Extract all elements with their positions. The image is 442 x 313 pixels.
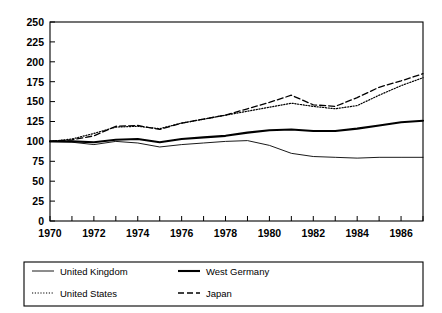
chart-legend: United KingdomWest GermanyUnited StatesJ…: [24, 262, 423, 306]
legend-label-west-germany: West Germany: [206, 266, 269, 277]
series-line-west-germany: [50, 121, 423, 143]
series-line-united-states: [50, 78, 423, 142]
legend-label-united-kingdom: United Kingdom: [60, 266, 128, 277]
chart-container: 0255075100125150175200225250 19701972197…: [0, 0, 442, 313]
x-tick-label: 1974: [126, 227, 150, 239]
x-axis: 197019721974197619781980198219841986: [38, 216, 423, 239]
y-axis: 0255075100125150175200225250: [26, 16, 55, 227]
legend-label-united-states: United States: [60, 288, 117, 299]
line-chart: 0255075100125150175200225250 19701972197…: [0, 0, 442, 313]
y-tick-label: 250: [26, 16, 44, 28]
x-tick-label: 1982: [302, 227, 326, 239]
x-tick-label: 1976: [170, 227, 194, 239]
series-line-united-kingdom: [50, 141, 423, 159]
x-tick-label: 1980: [258, 227, 282, 239]
y-tick-label: 150: [26, 95, 44, 107]
y-tick-label: 175: [26, 76, 44, 88]
legend-label-japan: Japan: [206, 288, 232, 299]
plot-frame: [50, 22, 423, 221]
data-series-group: [50, 74, 423, 158]
y-tick-label: 125: [26, 115, 44, 127]
y-tick-label: 75: [32, 155, 44, 167]
series-line-japan: [50, 74, 423, 142]
y-tick-label: 50: [32, 175, 44, 187]
x-tick-label: 1978: [214, 227, 238, 239]
x-tick-label: 1984: [345, 227, 369, 239]
y-tick-label: 0: [38, 215, 44, 227]
x-tick-label: 1972: [82, 227, 106, 239]
y-tick-label: 200: [26, 56, 44, 68]
y-tick-label: 100: [26, 135, 44, 147]
plot-axes: [50, 22, 423, 221]
x-tick-label: 1970: [38, 227, 62, 239]
x-tick-label: 1986: [389, 227, 413, 239]
y-tick-label: 225: [26, 36, 44, 48]
y-tick-label: 25: [32, 195, 44, 207]
